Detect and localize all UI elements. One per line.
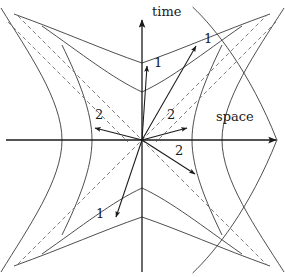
vector-timelike-down xyxy=(116,140,142,217)
vector-label-timelike-up: 1 xyxy=(154,56,162,69)
vector-label-spacelike-downright: 2 xyxy=(175,144,183,157)
vector-spacelike-downright xyxy=(142,140,195,174)
asymptote-offset-upper-right xyxy=(156,22,276,142)
vector-label-spacelike-left: 2 xyxy=(95,108,103,121)
space-axis-label: space xyxy=(216,110,254,123)
diagram-canvas xyxy=(0,0,285,277)
time-axis-label: time xyxy=(152,5,181,18)
vector-spacelike-left xyxy=(95,128,142,140)
minkowski-diagram: time space 1 1 2 2 2 1 xyxy=(0,0,285,277)
asymptote-offset-upper-left xyxy=(8,22,128,142)
vector-timelike-up xyxy=(142,66,147,140)
vector-spacelike-right xyxy=(142,128,187,140)
axes-group xyxy=(6,20,276,272)
vectors-group xyxy=(95,46,196,217)
vector-label-timelike-upright: 1 xyxy=(204,32,212,45)
vector-label-spacelike-right: 2 xyxy=(167,108,175,121)
vector-label-timelike-down: 1 xyxy=(96,207,104,220)
